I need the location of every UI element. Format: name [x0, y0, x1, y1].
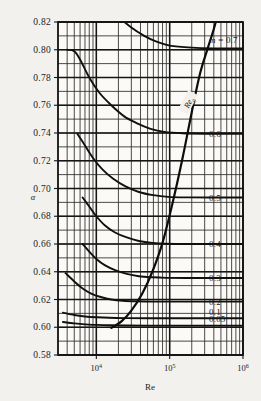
x-axis-title: Re [145, 382, 155, 392]
y-tick-label: 0.78 [33, 73, 51, 83]
curve-label-0p5: 0.5 [209, 193, 221, 203]
y-tick-label: 0.80 [33, 45, 51, 55]
curve-label-0p3: 0.3 [209, 273, 221, 283]
y-tick-label: 0.82 [33, 17, 51, 27]
y-axis-title: α [31, 192, 36, 202]
y-tick-label: 0.74 [33, 128, 51, 138]
y-tick-label: 0.66 [33, 239, 51, 249]
curve-label-0p2: 0.2 [209, 297, 221, 307]
y-tick-label: 0.58 [33, 350, 51, 360]
curve-label-0p6: 0.6 [209, 129, 221, 139]
curve-label-0p05: 0.05 [209, 314, 226, 324]
y-tick-label: 0.76 [33, 100, 51, 110]
curve-label-0p7: m = 0.7 [209, 35, 238, 45]
y-tick-label: 0.62 [33, 295, 51, 305]
y-tick-label: 0.68 [33, 211, 51, 221]
alpha-vs-reynolds-chart: Reg 0.820.800.780.760.740.720.700.680.66… [0, 0, 261, 401]
curve-label-0p4: 0.4 [209, 239, 221, 249]
y-tick-label: 0.70 [33, 184, 51, 194]
y-tick-label: 0.64 [33, 267, 51, 277]
y-tick-label: 0.60 [33, 322, 51, 332]
y-tick-label: 0.72 [33, 156, 51, 166]
